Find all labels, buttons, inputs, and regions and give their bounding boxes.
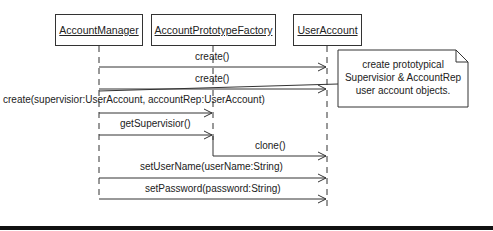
message-label: clone() <box>255 140 286 151</box>
object-useraccount: UserAccount <box>293 14 362 46</box>
object-label: AccountPrototypeFactory <box>155 24 273 36</box>
object-label: AccountManager <box>59 24 138 36</box>
message-label: create() <box>195 51 229 62</box>
note-line: Supervisior & AccountRep <box>340 71 466 84</box>
object-label: UserAccount <box>297 24 357 36</box>
message-label: getSupervisior() <box>120 118 191 129</box>
message-label: setUserName(userName:String) <box>140 161 283 172</box>
object-accountmanager: AccountManager <box>55 14 143 46</box>
message-label: create() <box>195 73 229 84</box>
note: create prototypical Supervisior & Accoun… <box>340 58 466 97</box>
message-label: setPassword(password:String) <box>145 183 281 194</box>
bottom-divider <box>0 226 493 230</box>
note-line: create prototypical <box>340 58 466 71</box>
message-label: create(supervisior:UserAccount, accountR… <box>3 94 265 105</box>
object-accountprototypefactory: AccountPrototypeFactory <box>151 14 276 46</box>
note-line: user account objects. <box>340 84 466 97</box>
